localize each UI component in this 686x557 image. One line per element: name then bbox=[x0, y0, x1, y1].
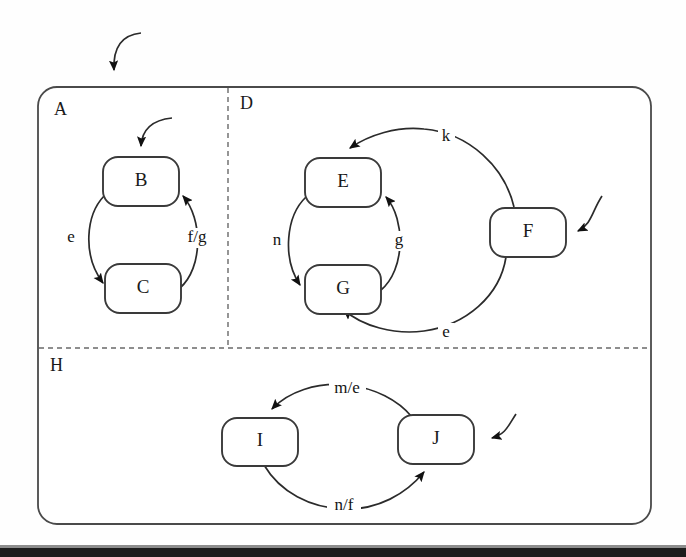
initial-arrow-outer bbox=[114, 33, 141, 70]
statechart-diagram: A D H e f/g B C n g k bbox=[0, 0, 686, 557]
edge-label-j-to-i: m/e bbox=[334, 378, 360, 397]
edge-label-f-to-g: e bbox=[442, 322, 450, 341]
state-g-label: G bbox=[336, 277, 350, 298]
edge-label-b-to-c: e bbox=[67, 227, 75, 246]
region-label-a: A bbox=[54, 99, 67, 119]
region-label-d: D bbox=[240, 93, 253, 113]
state-e-label: E bbox=[337, 170, 349, 191]
state-j-label: J bbox=[432, 427, 439, 448]
state-f-label: F bbox=[523, 220, 534, 241]
region-label-h: H bbox=[50, 355, 63, 375]
edge-label-g-to-e: g bbox=[395, 230, 404, 249]
edge-label-f-to-e: k bbox=[442, 126, 451, 145]
edge-label-i-to-j: n/f bbox=[335, 495, 354, 514]
edge-label-e-to-g: n bbox=[273, 230, 282, 249]
state-b-label: B bbox=[135, 169, 148, 190]
edge-label-c-to-b: f/g bbox=[188, 227, 207, 246]
state-i-label: I bbox=[257, 429, 263, 450]
diagram-page: A D H e f/g B C n g k bbox=[0, 0, 686, 557]
state-c-label: C bbox=[137, 276, 150, 297]
scan-artifact-bar bbox=[0, 548, 686, 557]
